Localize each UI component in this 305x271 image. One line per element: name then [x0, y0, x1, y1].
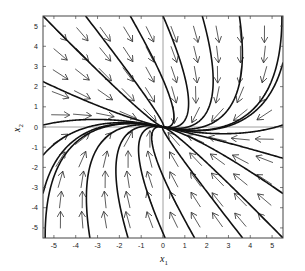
y-tick-label: -5 [32, 224, 38, 231]
trajectory-curve [163, 127, 283, 238]
field-arrow [193, 26, 198, 43]
field-arrow [217, 46, 219, 63]
field-arrow [75, 69, 89, 80]
x-tick-label: 5 [270, 242, 274, 249]
x-tick-label: 2 [205, 242, 209, 249]
field-arrow [147, 212, 153, 228]
field-arrow [96, 113, 114, 117]
field-arrow [170, 212, 178, 228]
field-arrow [235, 213, 246, 227]
field-arrow [194, 66, 197, 83]
field-arrow [58, 171, 63, 188]
trajectory-curve [43, 16, 163, 127]
field-arrow [216, 86, 219, 103]
field-arrow [257, 110, 272, 120]
x-axis-label: x1 [159, 253, 168, 267]
x-tick-label: -3 [94, 242, 100, 249]
field-arrow [216, 26, 219, 43]
y-tick-label: -4 [32, 204, 38, 211]
x-tick-label: -5 [51, 242, 57, 249]
field-arrow [100, 27, 110, 41]
field-arrow [191, 212, 200, 227]
field-arrow [191, 192, 201, 207]
field-arrow [79, 151, 86, 167]
field-arrow [212, 213, 222, 227]
field-arrow [148, 151, 152, 168]
field-arrow [171, 26, 177, 42]
field-arrow [262, 66, 267, 83]
field-arrow [123, 67, 134, 81]
field-arrow [146, 47, 154, 62]
field-arrow [104, 211, 107, 228]
trajectory-curve [163, 16, 189, 128]
y-axis-label: x2 [11, 124, 25, 133]
x-tick-label: 1 [183, 242, 187, 249]
field-arrow [126, 191, 130, 208]
field-arrow [123, 47, 133, 62]
x-tick-label: 0 [161, 242, 165, 249]
field-arrow [169, 152, 178, 167]
y-tick-label: 1 [34, 103, 38, 110]
x-tick-label: 3 [227, 242, 231, 249]
field-arrow [256, 156, 273, 163]
field-arrow [234, 174, 248, 185]
y-tick-label: 4 [34, 43, 38, 50]
field-arrow [192, 107, 200, 123]
y-tick-label: -2 [32, 164, 38, 171]
field-arrow [146, 26, 154, 42]
field-arrow [127, 171, 130, 188]
x-tick-label: -1 [138, 242, 144, 249]
trajectory-curve [130, 16, 174, 127]
field-arrow [73, 114, 91, 116]
field-arrow [126, 212, 131, 229]
field-arrow [103, 151, 107, 168]
phase-portrait-figure: -5-4-3-2-1012345 -5-4-3-2-1012345 x1 x2 [0, 0, 305, 271]
field-arrow [81, 171, 84, 188]
field-arrow [171, 66, 177, 82]
field-arrow [147, 171, 152, 187]
y-tick-label: 2 [34, 83, 38, 90]
trajectory-curve [163, 127, 283, 194]
trajectory-curve [163, 127, 283, 158]
field-arrow [104, 191, 106, 208]
field-arrow [258, 194, 272, 206]
y-tick-label: -3 [32, 184, 38, 191]
field-arrow [257, 175, 272, 185]
field-arrow [76, 27, 88, 40]
field-arrow [172, 86, 177, 103]
field-arrow [59, 191, 61, 208]
x-tick-label: -2 [116, 242, 122, 249]
field-arrow [146, 67, 154, 82]
x-tick-label: -4 [73, 242, 79, 249]
y-tick-label: -1 [32, 144, 38, 151]
field-arrow [145, 87, 154, 102]
x-tick-label: 4 [248, 242, 252, 249]
field-arrow [211, 173, 223, 186]
field-arrow [54, 49, 68, 61]
trajectory-curve [163, 16, 242, 129]
field-arrow [231, 138, 249, 140]
field-arrow [100, 48, 111, 62]
trajectory-curve [86, 16, 164, 127]
field-arrow [53, 70, 68, 80]
y-tick-label: 5 [34, 23, 38, 30]
field-arrow [210, 154, 225, 165]
field-arrow [170, 172, 178, 187]
field-arrow [191, 172, 201, 186]
field-arrow [264, 46, 266, 63]
field-arrow [190, 153, 202, 166]
field-arrow [124, 27, 133, 42]
field-arrow [194, 46, 198, 63]
field-arrow [82, 211, 83, 228]
y-tick-label: 0 [34, 124, 38, 131]
field-arrow [98, 90, 113, 100]
y-tick-label: 3 [34, 63, 38, 70]
